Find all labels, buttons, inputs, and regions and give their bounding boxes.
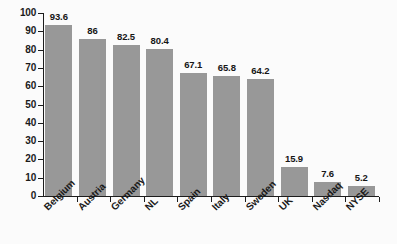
bar-value-label: 15.9 [273, 154, 316, 164]
bar [113, 45, 140, 196]
y-tick-label: 60 [0, 81, 36, 91]
bar [79, 39, 106, 196]
y-tick-label: 50 [0, 100, 36, 110]
bar-chart: 1009080706050403020100 93.68682.580.467.… [0, 0, 397, 244]
y-tick-label: 40 [0, 118, 36, 128]
category-label: UK [278, 195, 295, 212]
y-tick-mark [38, 31, 43, 32]
y-tick-label-text: 30 [2, 136, 36, 146]
y-tick-mark [38, 178, 43, 179]
y-tick-mark [38, 105, 43, 106]
y-tick-label: 30 [0, 136, 36, 146]
plot-area: 1009080706050403020100 93.68682.580.467.… [0, 0, 397, 244]
y-tick-label: 100 [0, 8, 36, 18]
x-tick-mark [379, 197, 380, 202]
y-tick-mark [38, 123, 43, 124]
y-tick-label-text: 10 [2, 173, 36, 183]
y-tick-label: 0 [0, 191, 36, 201]
bar-value-label: 64.2 [239, 66, 282, 76]
y-tick-mark [38, 196, 43, 197]
y-tick-label-text: 80 [2, 45, 36, 55]
y-tick-label-text: 60 [2, 81, 36, 91]
bar-value-label: 5.2 [340, 173, 383, 183]
y-tick-label-text: 20 [2, 154, 36, 164]
y-tick-label: 20 [0, 154, 36, 164]
y-tick-label: 10 [0, 173, 36, 183]
y-tick-label-text: 40 [2, 118, 36, 128]
y-tick-mark [38, 86, 43, 87]
bar [213, 76, 240, 196]
y-tick-label-text: 90 [2, 26, 36, 36]
y-tick-mark [38, 68, 43, 69]
y-tick-mark [38, 141, 43, 142]
y-tick-label-text: 70 [2, 63, 36, 73]
bar-value-label: 80.4 [138, 36, 181, 46]
y-axis-line [43, 13, 44, 197]
y-tick-label-text: 0 [2, 191, 36, 201]
bar-value-label: 93.6 [37, 12, 80, 22]
bar [180, 73, 207, 196]
y-tick-label-text: 100 [2, 8, 36, 18]
bar [146, 49, 173, 196]
y-tick-label: 80 [0, 45, 36, 55]
y-tick-label-text: 50 [2, 100, 36, 110]
category-label: NL [143, 196, 159, 212]
bar [281, 167, 308, 196]
y-tick-label: 90 [0, 26, 36, 36]
y-tick-label: 70 [0, 63, 36, 73]
y-tick-mark [38, 50, 43, 51]
bar [45, 25, 72, 196]
y-tick-mark [38, 159, 43, 160]
